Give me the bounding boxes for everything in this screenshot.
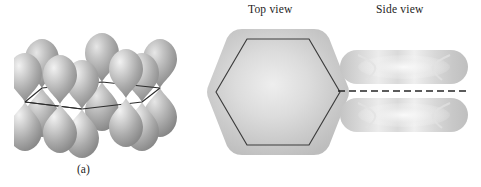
lower-pi-lobe [340,98,468,132]
upper-pi-lobe [340,50,468,84]
pi-cloud-hexagon [207,29,349,155]
panel-b-delocalized-cloud: Top view Side view [200,0,481,187]
side-view-illustration [338,46,470,136]
caption-a: (a) [77,163,90,175]
panel-a-p-orbitals: (a) [0,0,200,187]
top-view-illustration [206,22,351,162]
side-view-label: Side view [376,3,423,15]
top-view-label: Top view [248,3,293,15]
benzene-pi-orbital-figure: (a) Top view Side view [0,0,481,187]
p-orbital-array-illustration [14,14,189,159]
